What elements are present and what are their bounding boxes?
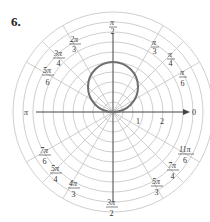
- angle-label-pi-over-2: π2: [109, 18, 117, 36]
- angle-label-pi-over-4: π4: [167, 50, 175, 68]
- svg-text:3: 3: [72, 45, 76, 54]
- radial-label-1: 1: [136, 117, 140, 126]
- svg-text:3: 3: [155, 188, 159, 197]
- svg-text:4π: 4π: [69, 179, 78, 188]
- svg-text:6: 6: [43, 157, 47, 166]
- svg-text:3π: 3π: [53, 49, 63, 58]
- polar-chart: 1 2 0 π π2 π3 π4 π6 2π3 3π4 5π6 7π6 5π4 …: [0, 0, 210, 222]
- svg-text:π: π: [152, 38, 157, 47]
- angle-label-3pi-over-2: 3π2: [106, 198, 118, 218]
- angle-label-5pi-over-4: 5π4: [50, 164, 62, 184]
- angle-label-4pi-over-3: 4π3: [68, 179, 80, 199]
- svg-text:6: 6: [46, 78, 50, 87]
- svg-text:7π: 7π: [168, 161, 177, 170]
- svg-text:2π: 2π: [70, 35, 79, 44]
- svg-text:6: 6: [183, 156, 187, 165]
- radial-label-2: 2: [160, 117, 164, 126]
- svg-text:3π: 3π: [106, 198, 116, 207]
- axis-arrow-icon: [183, 109, 190, 115]
- angle-label-7pi-over-4: 7π4: [167, 161, 179, 181]
- svg-text:5π: 5π: [43, 66, 52, 75]
- svg-text:2: 2: [110, 209, 114, 218]
- svg-text:7π: 7π: [40, 146, 49, 155]
- angle-label-pi: π: [24, 108, 29, 117]
- svg-text:5π: 5π: [51, 164, 60, 173]
- angle-label-0: 0: [192, 108, 196, 117]
- svg-text:5π: 5π: [152, 177, 161, 186]
- svg-text:4: 4: [57, 59, 61, 68]
- svg-text:2: 2: [111, 27, 115, 36]
- svg-text:3: 3: [72, 190, 76, 199]
- svg-text:4: 4: [171, 172, 175, 181]
- angle-label-3pi-over-4: 3π4: [53, 49, 65, 68]
- svg-text:4: 4: [169, 59, 173, 68]
- angle-label-5pi-over-3: 5π3: [151, 177, 163, 197]
- svg-text:11π: 11π: [179, 145, 191, 154]
- svg-text:4: 4: [54, 175, 58, 184]
- angle-label-pi-over-3: π3: [151, 38, 159, 56]
- svg-text:3: 3: [153, 47, 157, 56]
- svg-text:6: 6: [181, 79, 185, 88]
